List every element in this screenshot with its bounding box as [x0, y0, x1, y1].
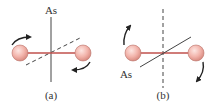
dashed-reference-line-a	[26, 38, 80, 65]
caption-a: (a)	[45, 89, 58, 102]
rotation-arrow-right-b	[197, 62, 203, 81]
dumbbell-rotation-diagram: As (a) As (b)	[0, 0, 216, 106]
axis-line-b	[140, 37, 191, 67]
caption-b: (b)	[157, 89, 170, 102]
ball-left-b	[125, 45, 141, 61]
panel-b: As (b)	[120, 9, 204, 102]
rotation-arrow-bottom-a	[73, 62, 90, 70]
rotation-arrow-left-b	[124, 26, 130, 45]
axis-label-b: As	[120, 68, 132, 80]
axis-label-a: As	[45, 4, 57, 16]
ball-right-b	[188, 45, 204, 61]
ball-left-a	[12, 45, 28, 61]
ball-right-a	[75, 45, 91, 61]
panel-a: As (a)	[12, 4, 91, 102]
rotation-arrow-top-a	[12, 37, 30, 45]
